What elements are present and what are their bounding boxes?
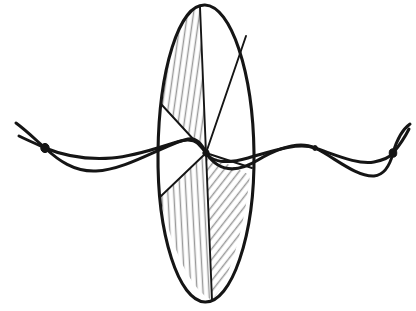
sector-lower-right: [206, 153, 250, 300]
node-center: [203, 150, 209, 156]
node-left-end: [41, 143, 49, 152]
figure-root: Standing wave on a string passing throug…: [0, 0, 416, 311]
diagram-canvas: [0, 0, 416, 311]
node-right-inner: [313, 146, 318, 151]
node-right-end: [389, 149, 397, 157]
